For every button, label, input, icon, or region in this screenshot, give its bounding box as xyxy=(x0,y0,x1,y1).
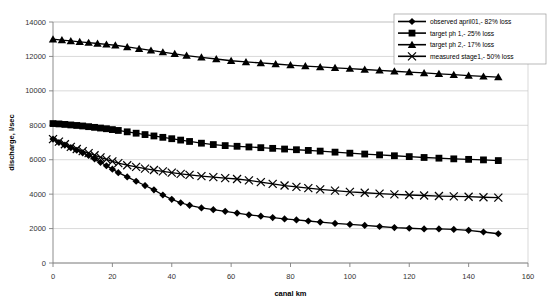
data-point-marker xyxy=(56,121,63,128)
data-point-marker xyxy=(406,225,413,232)
data-point-marker xyxy=(480,228,487,235)
x-axis-tick-label: 0 xyxy=(51,272,55,281)
y-axis-tick-label: 8000 xyxy=(29,121,46,130)
data-point-marker xyxy=(186,138,193,145)
data-point-marker xyxy=(245,211,252,218)
data-point-marker xyxy=(435,225,442,232)
data-point-marker xyxy=(142,131,149,138)
data-point-marker xyxy=(133,130,140,137)
data-point-marker xyxy=(210,206,217,213)
data-point-marker xyxy=(246,144,253,151)
data-point-marker xyxy=(332,149,339,156)
discharge-line-chart: 0200040006000800010000120001400002040608… xyxy=(0,0,557,302)
data-point-marker xyxy=(198,140,205,147)
data-point-marker xyxy=(391,152,398,159)
data-point-marker xyxy=(67,122,74,129)
data-point-marker xyxy=(141,182,148,189)
data-point-marker xyxy=(281,215,288,222)
data-point-marker xyxy=(61,121,68,128)
data-point-marker xyxy=(450,155,457,162)
data-point-marker xyxy=(480,156,487,163)
x-axis-tick-label: 120 xyxy=(403,272,416,281)
y-axis-tick-label: 14000 xyxy=(25,18,46,27)
legend-label: target ph 1,- 25% loss xyxy=(430,30,495,38)
data-point-marker xyxy=(293,146,300,153)
data-point-marker xyxy=(361,222,368,229)
data-point-marker xyxy=(257,213,264,220)
data-point-marker xyxy=(234,143,241,150)
x-axis-title: canal km xyxy=(274,289,306,298)
legend: observed april01,- 82% losstarget ph 1,-… xyxy=(394,14,546,64)
data-point-marker xyxy=(409,30,416,37)
x-axis-tick-label: 60 xyxy=(227,272,235,281)
y-axis-tick-label: 12000 xyxy=(25,52,46,61)
data-point-marker xyxy=(222,142,229,149)
data-point-marker xyxy=(317,218,324,225)
data-point-marker xyxy=(465,156,472,163)
data-point-marker xyxy=(103,162,110,169)
data-point-marker xyxy=(150,186,157,193)
data-point-marker xyxy=(177,199,184,206)
data-point-marker xyxy=(73,122,80,129)
data-point-marker xyxy=(331,220,338,227)
data-point-marker xyxy=(421,154,428,161)
data-point-marker xyxy=(108,157,116,165)
data-point-marker xyxy=(49,35,57,42)
data-point-marker xyxy=(495,230,502,237)
data-point-marker xyxy=(115,169,122,176)
x-axis-tick-label: 160 xyxy=(522,272,535,281)
data-point-marker xyxy=(361,151,368,158)
x-axis-tick-label: 20 xyxy=(108,272,116,281)
x-axis-tick-label: 100 xyxy=(344,272,357,281)
y-axis-tick-label: 2000 xyxy=(29,224,46,233)
x-axis-tick-label: 80 xyxy=(286,272,294,281)
data-point-marker xyxy=(376,223,383,230)
legend-label: target ph 2,- 17% loss xyxy=(430,41,495,49)
data-point-marker xyxy=(103,125,110,132)
y-axis-title: discharge, l/sec xyxy=(7,114,16,170)
data-point-marker xyxy=(85,123,92,130)
x-axis-tick-label: 40 xyxy=(168,272,176,281)
y-axis-tick-label: 4000 xyxy=(29,190,46,199)
data-point-marker xyxy=(109,126,116,133)
series-2 xyxy=(50,120,502,164)
data-point-marker xyxy=(168,196,175,203)
data-point-marker xyxy=(420,225,427,232)
x-axis-tick-label: 140 xyxy=(462,272,475,281)
data-point-marker xyxy=(210,141,217,148)
legend-item-2[interactable]: target ph 1,- 25% loss xyxy=(398,30,495,38)
data-point-marker xyxy=(436,155,443,162)
data-point-marker xyxy=(269,214,276,221)
legend-item-4[interactable]: measured stage1,- 50% loss xyxy=(398,52,514,60)
data-point-marker xyxy=(222,208,229,215)
data-point-marker xyxy=(233,209,240,216)
data-point-marker xyxy=(159,134,166,141)
data-point-marker xyxy=(151,133,158,140)
data-point-marker xyxy=(257,144,264,151)
data-point-marker xyxy=(305,217,312,224)
data-point-marker xyxy=(293,216,300,223)
data-point-marker xyxy=(317,148,324,155)
data-point-marker xyxy=(305,147,312,154)
data-point-marker xyxy=(269,145,276,152)
data-point-marker xyxy=(281,146,288,153)
data-point-marker xyxy=(465,227,472,234)
legend-item-3[interactable]: target ph 2,- 17% loss xyxy=(398,41,495,49)
legend-label: observed april01,- 82% loss xyxy=(430,18,512,26)
data-point-marker xyxy=(79,123,86,130)
data-point-marker xyxy=(346,221,353,228)
data-point-marker xyxy=(124,173,131,180)
y-axis-tick-label: 10000 xyxy=(25,86,46,95)
data-point-marker xyxy=(450,226,457,233)
y-axis-tick-label: 6000 xyxy=(29,155,46,164)
data-point-marker xyxy=(97,125,104,132)
data-point-marker xyxy=(391,224,398,231)
data-point-marker xyxy=(177,137,184,144)
legend-label: measured stage1,- 50% loss xyxy=(430,53,514,61)
data-point-marker xyxy=(124,128,131,135)
data-point-marker xyxy=(133,178,140,185)
data-point-marker xyxy=(159,191,166,198)
chart-container: 0200040006000800010000120001400002040608… xyxy=(0,0,557,302)
data-point-marker xyxy=(91,124,98,131)
data-point-marker xyxy=(376,151,383,158)
